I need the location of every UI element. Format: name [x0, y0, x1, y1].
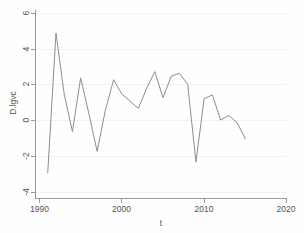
x-axis-title: t — [160, 218, 163, 228]
x-tick-label-1990: 1990 — [30, 204, 49, 214]
x-tick-label-2000: 2000 — [112, 204, 131, 214]
chart-container: 6 4 2 0 -2 -4 D.lgvc 1990 2000 2010 2020… — [0, 0, 304, 233]
y-axis: 6 4 2 0 -2 -4 D.lgvc — [8, 10, 35, 198]
x-tick-label-2020: 2020 — [277, 204, 296, 214]
y-tick-label-0: 0 — [21, 117, 31, 122]
x-axis: 1990 2000 2010 2020 t — [30, 198, 296, 228]
y-axis-title: D.lgvc — [8, 90, 18, 114]
grid-lines — [35, 13, 287, 192]
y-tick-label-4: 4 — [21, 46, 31, 51]
y-tick-label-2: 2 — [21, 81, 31, 86]
y-tick-label-6: 6 — [21, 10, 31, 15]
data-series-line — [48, 33, 246, 173]
y-tick-label-neg2: -2 — [21, 152, 31, 160]
line-chart: 6 4 2 0 -2 -4 D.lgvc 1990 2000 2010 2020… — [0, 0, 304, 233]
y-tick-label-neg4: -4 — [21, 188, 31, 196]
x-tick-label-2010: 2010 — [195, 204, 214, 214]
